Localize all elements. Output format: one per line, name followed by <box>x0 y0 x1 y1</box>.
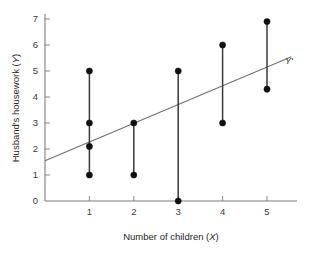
data-point <box>220 120 226 126</box>
data-point <box>220 42 226 48</box>
y-axis-tick-labels: 01234567 <box>33 13 38 206</box>
y-tick-label: 5 <box>33 65 38 76</box>
data-point <box>86 143 92 149</box>
data-point <box>86 172 92 178</box>
y-tick-label: 0 <box>33 195 38 206</box>
y-tick-label: 4 <box>33 91 38 102</box>
y-tick-label: 2 <box>33 143 38 154</box>
y-tick-label: 3 <box>33 117 38 128</box>
plot-canvas: 01234567 12345 Y' Number of children (X)… <box>0 0 309 253</box>
y-axis-title: Husband's housework (Y) <box>10 54 21 163</box>
x-tick-label: 2 <box>131 206 136 217</box>
data-point <box>131 172 137 178</box>
x-tick-label: 1 <box>87 206 92 217</box>
x-tick-label: 3 <box>176 206 181 217</box>
y-tick-label: 1 <box>33 169 38 180</box>
data-point <box>264 86 270 92</box>
data-point <box>131 120 137 126</box>
x-axis-tick-labels: 12345 <box>87 206 270 217</box>
y-tick-label: 7 <box>33 13 38 24</box>
residual-lines-group <box>89 22 267 201</box>
regression-line <box>45 57 291 161</box>
x-tick-label: 5 <box>264 206 269 217</box>
x-axis-title: Number of children (X) <box>123 231 219 242</box>
data-point <box>86 120 92 126</box>
regression-line-label: Y' <box>285 56 293 66</box>
data-point <box>175 198 181 204</box>
data-point <box>264 19 270 25</box>
x-tick-label: 4 <box>220 206 225 217</box>
scatter-plot-figure: 01234567 12345 Y' Number of children (X)… <box>0 0 309 253</box>
data-point <box>175 68 181 74</box>
y-tick-label: 6 <box>33 39 38 50</box>
y-axis-tick-marks <box>45 19 50 175</box>
data-point <box>86 68 92 74</box>
